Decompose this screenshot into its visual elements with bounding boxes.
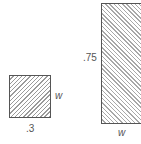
rectangle-side-label: .75 (83, 53, 97, 63)
square-side-label: w (55, 91, 62, 101)
rectangle-bottom-label: w (118, 128, 125, 138)
square-bottom-label: .3 (26, 124, 34, 134)
tall-rectangle-shape (101, 3, 141, 124)
small-square-shape (9, 75, 51, 118)
